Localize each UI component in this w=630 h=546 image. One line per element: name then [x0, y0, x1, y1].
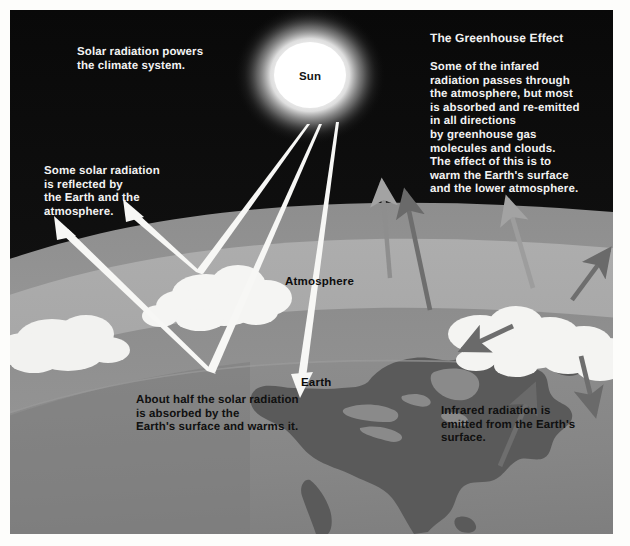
caption-greenhouse-effect-title: The Greenhouse Effect: [430, 31, 613, 45]
label-atmosphere: Atmosphere: [285, 275, 354, 287]
ir-arrow-up-right: [572, 250, 609, 300]
solar-reflected-arrows: [54, 199, 216, 374]
label-earth: Earth: [301, 376, 331, 388]
reflect-off-cloud-shaft: [131, 212, 204, 275]
caption-solar-radiation-powers: Solar radiation powers the climate syste…: [77, 46, 277, 73]
caption-solar-absorbed: About half the solar radiation is absorb…: [136, 394, 351, 435]
caption-infrared-emitted: Infrared radiation is emitted from the E…: [441, 405, 611, 446]
ir-arrow-up-far-left: [382, 182, 390, 278]
caption-greenhouse-effect-body: Some of the infared radiation passes thr…: [430, 61, 613, 197]
solar-incoming-arrows: [196, 122, 339, 398]
greenhouse-effect-figure: Solar radiation powers the climate syste…: [0, 0, 630, 546]
ir-arrow-down-left: [462, 326, 513, 350]
caption-solar-reflected: Some solar radiation is reflected by the…: [44, 165, 214, 219]
ir-arrow-up-center: [507, 199, 533, 288]
reflect-off-surface-shaft: [62, 229, 216, 374]
illustration-plate: Solar radiation powers the climate syste…: [10, 10, 613, 534]
reflect-off-surface-head: [54, 216, 76, 240]
ir-arrow-up-left-edge: [405, 192, 430, 310]
label-sun: Sun: [299, 70, 321, 82]
